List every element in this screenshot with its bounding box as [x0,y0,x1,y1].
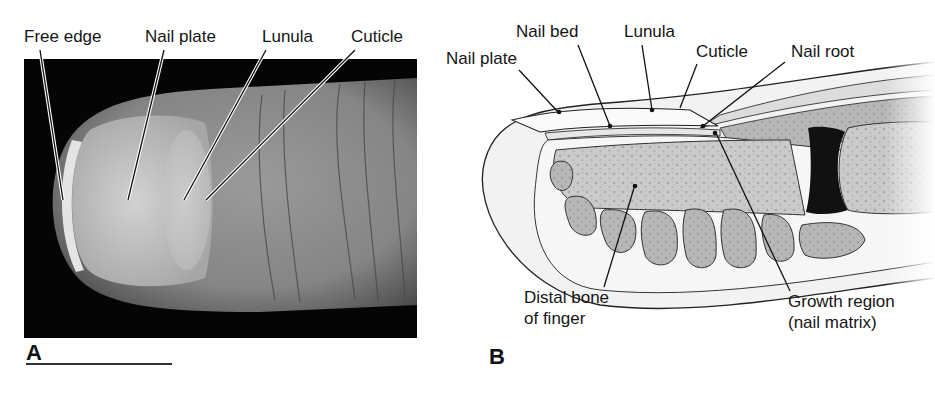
label-cuticle-a: Cuticle [351,27,403,46]
panel-letter-b: B [489,344,505,370]
label-lunula-a: Lunula [262,27,313,46]
label-nail-plate-b: Nail plate [446,49,517,68]
label-growth-region-2: (nail matrix) [788,313,877,332]
label-lunula-b: Lunula [624,22,675,41]
label-free-edge: Free edge [24,27,102,46]
panel-b-diagram [482,55,935,309]
label-cuticle-b: Cuticle [696,42,748,61]
label-growth-region-1: Growth region [788,292,895,311]
scale-rule [26,363,172,365]
label-nail-bed: Nail bed [516,22,578,41]
lunula-region [163,130,211,270]
label-nail-plate-a: Nail plate [145,27,216,46]
label-nail-root: Nail root [791,42,854,61]
panel-a-photo [24,59,417,338]
label-distal-bone-2: of finger [524,309,585,328]
label-distal-bone-1: Distal bone [524,288,609,307]
